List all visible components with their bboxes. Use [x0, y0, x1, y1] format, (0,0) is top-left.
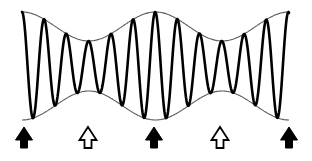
filled-up-arrow-icon: [281, 127, 298, 148]
outline-up-arrow-icon: [80, 127, 97, 148]
envelope-lower: [22, 91, 289, 120]
outline-up-arrow-icon: [212, 127, 229, 148]
wave-canvas: [0, 0, 312, 161]
filled-up-arrow-icon: [16, 127, 33, 148]
filled-up-arrow-icon: [146, 127, 163, 148]
carrier-wave: [22, 12, 289, 118]
beat-wave-diagram: [0, 0, 312, 161]
arrow-markers: [16, 127, 298, 148]
